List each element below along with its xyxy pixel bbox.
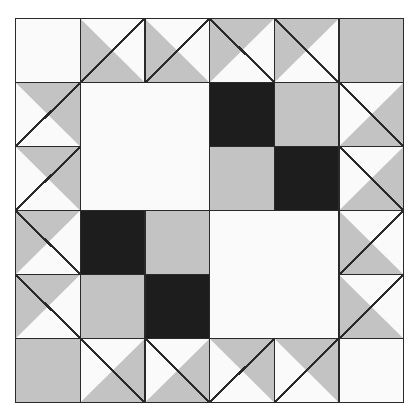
patch-r2c5 [274, 82, 339, 147]
patch-r2c1 [15, 82, 80, 147]
patch-r1c4 [209, 18, 274, 83]
patch-r3c1 [15, 146, 80, 211]
patch-r5c6 [339, 274, 404, 339]
patch-r6c4 [209, 338, 274, 403]
patch-r2c4 [209, 82, 274, 147]
patch-r4c3 [145, 210, 210, 275]
patch-r2c2-large-white-square [80, 82, 210, 211]
patch-r1c3 [145, 18, 210, 83]
patch-r4c2 [80, 210, 145, 275]
patch-r3c4 [209, 146, 274, 211]
patch-r4c4-large-white-square [209, 210, 339, 339]
patch-r1c5 [274, 18, 339, 83]
patch-r3c5 [274, 146, 339, 211]
quilt-block-diagram [16, 19, 404, 403]
image-canvas [0, 0, 418, 419]
patch-r1c2 [80, 18, 145, 83]
patch-r1c1 [15, 18, 80, 83]
patch-r4c6 [339, 210, 404, 275]
patch-r3c6 [339, 146, 404, 211]
patch-r6c1 [15, 338, 80, 403]
patch-r6c3 [145, 338, 210, 403]
patch-r4c1 [15, 210, 80, 275]
patch-r6c2 [80, 338, 145, 403]
patch-r5c3 [145, 274, 210, 339]
patch-r5c1 [15, 274, 80, 339]
patch-r2c6 [339, 82, 404, 147]
patch-r1c6 [339, 18, 404, 83]
patch-r6c6 [339, 338, 404, 403]
patch-r6c5 [274, 338, 339, 403]
patch-r5c2 [80, 274, 145, 339]
